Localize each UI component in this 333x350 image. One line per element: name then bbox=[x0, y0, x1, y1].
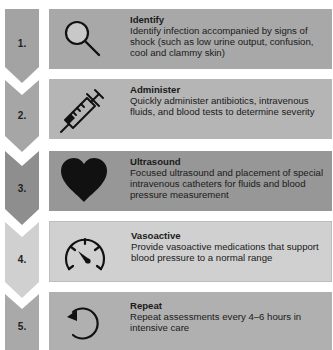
step-number: 2. bbox=[5, 110, 39, 121]
step-description: Quickly administer antibiotics, intraven… bbox=[130, 95, 326, 117]
step-chevron-4: 4. bbox=[5, 222, 39, 298]
step-box-identify: Identify Identify infection accompanied … bbox=[49, 9, 332, 69]
step-description: Focused ultrasound and placement of spec… bbox=[130, 167, 326, 200]
step-chevron-1: 1. bbox=[5, 9, 39, 83]
step-number: 3. bbox=[5, 183, 39, 194]
magnifying-glass-icon bbox=[57, 12, 111, 66]
step-box-ultrasound: Ultrasound Focused ultrasound and placem… bbox=[49, 151, 332, 211]
step-title: Identify bbox=[130, 14, 326, 25]
syringe-icon bbox=[57, 82, 111, 136]
step-chevron-5: 5. bbox=[5, 294, 39, 350]
repeat-arrow-icon bbox=[57, 295, 111, 349]
gauge-icon bbox=[58, 225, 112, 279]
step-text: Identify Identify infection accompanied … bbox=[130, 14, 326, 58]
step-description: Provide vasoactive medications that supp… bbox=[131, 241, 325, 263]
step-box-repeat: Repeat Repeat assessments every 4–6 hour… bbox=[49, 292, 332, 350]
step-title: Ultrasound bbox=[130, 156, 326, 167]
step-title: Administer bbox=[130, 84, 326, 95]
step-box-vasoactive: Vasoactive Provide vasoactive medication… bbox=[49, 221, 332, 282]
step-number: 4. bbox=[5, 254, 39, 265]
step-text: Vasoactive Provide vasoactive medication… bbox=[131, 230, 325, 263]
step-text: Ultrasound Focused ultrasound and placem… bbox=[130, 156, 326, 200]
step-text: Repeat Repeat assessments every 4–6 hour… bbox=[130, 300, 326, 333]
step-number: 1. bbox=[5, 38, 39, 49]
step-title: Repeat bbox=[130, 300, 326, 311]
step-box-administer: Administer Quickly administer antibiotic… bbox=[49, 79, 332, 139]
step-title: Vasoactive bbox=[131, 230, 325, 241]
step-description: Identify infection accompanied by signs … bbox=[130, 25, 326, 58]
step-chevron-3: 3. bbox=[5, 151, 39, 225]
step-number: 5. bbox=[5, 321, 39, 332]
step-chevron-2: 2. bbox=[5, 80, 39, 152]
heart-icon bbox=[57, 154, 111, 208]
step-text: Administer Quickly administer antibiotic… bbox=[130, 84, 326, 117]
step-description: Repeat assessments every 4–6 hours in in… bbox=[130, 311, 326, 333]
